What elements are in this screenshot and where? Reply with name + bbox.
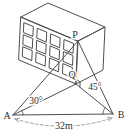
building bbox=[19, 3, 105, 84]
angle-arc-b bbox=[103, 108, 105, 114]
window bbox=[63, 52, 73, 66]
window bbox=[23, 35, 33, 49]
arrowhead bbox=[108, 117, 112, 118]
angle-arc-a bbox=[22, 111, 23, 115]
diagram-canvas: A B P Q 30° 45° 32m bbox=[0, 0, 128, 138]
angle-label-45: 45° bbox=[88, 82, 102, 92]
building-windows bbox=[23, 23, 74, 78]
building-face-top bbox=[21, 3, 105, 41]
distance-label: 32m bbox=[55, 120, 73, 131]
point-label-q: Q bbox=[68, 69, 76, 80]
window bbox=[23, 47, 33, 61]
arrowhead bbox=[15, 118, 19, 119]
window bbox=[51, 34, 61, 48]
sight-line-aq bbox=[13, 84, 76, 115]
window bbox=[24, 23, 34, 37]
point-label-a: A bbox=[3, 110, 11, 121]
angle-label-30: 30° bbox=[29, 96, 43, 106]
window bbox=[37, 40, 47, 54]
geometry-diagram: A B P Q 30° 45° 32m bbox=[0, 0, 128, 138]
sight-line-bp bbox=[78, 41, 113, 114]
window bbox=[36, 52, 46, 66]
point-label-b: B bbox=[118, 109, 125, 120]
window bbox=[37, 28, 47, 42]
window bbox=[50, 46, 60, 60]
building-face-right bbox=[76, 27, 105, 84]
sight-line-ab bbox=[13, 114, 113, 115]
point-label-p: P bbox=[72, 29, 78, 40]
